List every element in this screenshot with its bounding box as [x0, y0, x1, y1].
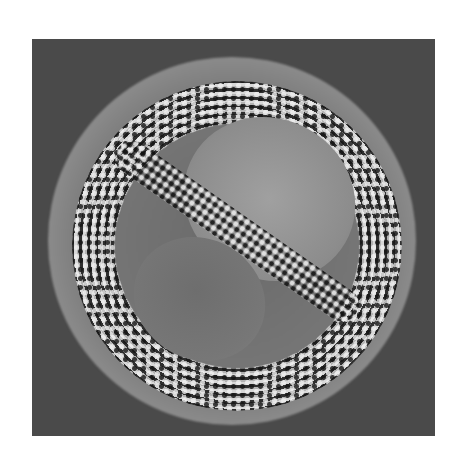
micrograph-frame [32, 39, 435, 436]
